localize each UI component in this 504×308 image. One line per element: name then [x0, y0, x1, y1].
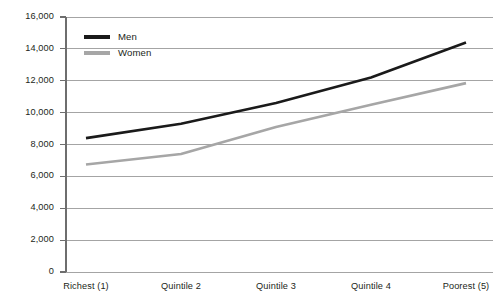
- x-axis-tick-label: Quintile 4: [321, 282, 421, 291]
- x-axis-tick-label: Poorest (5): [416, 282, 504, 291]
- chart-legend: MenWomen: [84, 29, 151, 61]
- legend-swatch-icon: [84, 51, 110, 54]
- legend-label: Men: [118, 32, 137, 42]
- line-chart: 02,0004,0006,0008,00010,00012,00014,0001…: [0, 0, 504, 308]
- y-axis-tick-label: 4,000: [0, 203, 54, 212]
- series-line-women: [86, 83, 466, 164]
- y-axis-tick-label: 6,000: [0, 171, 54, 180]
- legend-entry-men[interactable]: Men: [84, 29, 151, 45]
- y-axis-tick-label: 2,000: [0, 235, 54, 244]
- y-axis-ticks: [60, 17, 66, 272]
- x-axis-tick-label: Richest (1): [36, 282, 136, 291]
- plot-area: [0, 0, 504, 308]
- y-axis-tick-label: 14,000: [0, 44, 54, 53]
- y-axis-tick-label: 12,000: [0, 76, 54, 85]
- legend-swatch-icon: [84, 35, 110, 38]
- y-axis-tick-label: 10,000: [0, 108, 54, 117]
- y-axis-tick-label: 16,000: [0, 12, 54, 21]
- legend-entry-women[interactable]: Women: [84, 45, 151, 61]
- y-axis-tick-label: 0: [0, 267, 54, 276]
- x-axis-tick-label: Quintile 2: [131, 282, 231, 291]
- legend-label: Women: [118, 48, 151, 58]
- x-axis-tick-label: Quintile 3: [226, 282, 326, 291]
- y-axis-tick-label: 8,000: [0, 140, 54, 149]
